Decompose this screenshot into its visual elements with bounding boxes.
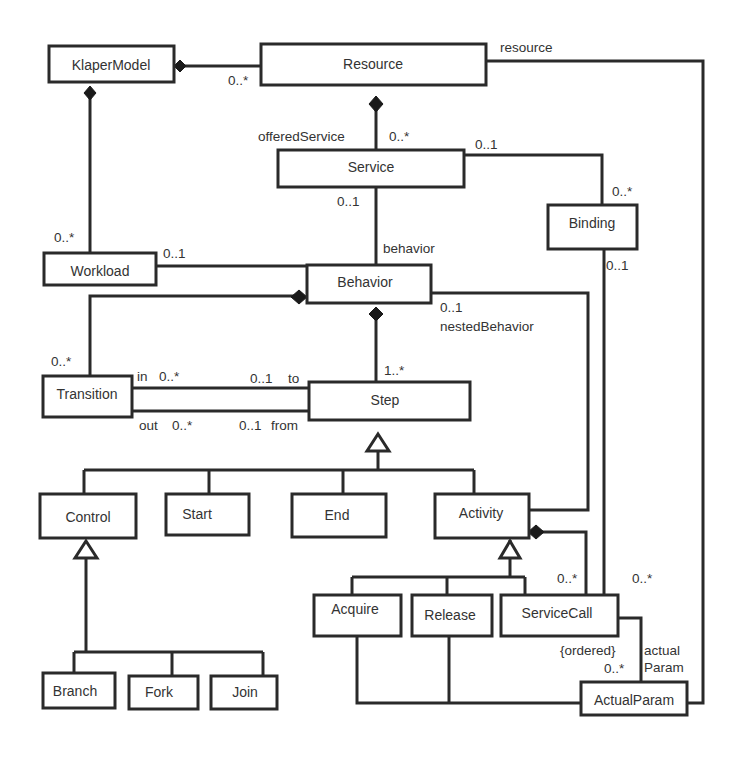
- svg-text:KlaperModel: KlaperModel: [72, 57, 151, 73]
- behavior-transition-link: [90, 296, 298, 375]
- acquire-resource-link: [357, 636, 420, 703]
- class-transition[interactable]: Transition: [43, 376, 132, 417]
- klaper-resource-diamond-icon: [174, 60, 186, 72]
- resource-role-label: resource: [500, 40, 553, 55]
- svg-text:Fork: Fork: [145, 684, 174, 700]
- to-role-label: to: [288, 371, 299, 386]
- behavior-transition-multiplicity: 0..*: [51, 354, 72, 369]
- service-behavior-multiplicity: 0..1: [337, 194, 360, 209]
- actual-param-multiplicity: 0..*: [604, 661, 625, 676]
- class-resource[interactable]: Resource: [261, 44, 486, 85]
- nested-behavior-multiplicity: 0..1: [440, 300, 463, 315]
- class-actualparam[interactable]: ActualParam: [581, 682, 687, 715]
- uml-class-diagram: KlaperModel Resource Service Binding Wor…: [0, 0, 737, 765]
- activity-generalization-triangle-icon: [500, 541, 520, 558]
- control-generalization-triangle-icon: [75, 541, 97, 558]
- in-multiplicity: 0..*: [159, 369, 180, 384]
- behavior-transition-diamond-icon: [291, 290, 307, 304]
- activity-servicecall-multiplicity: 0..*: [557, 571, 578, 586]
- class-control[interactable]: Control: [40, 494, 136, 538]
- svg-text:Step: Step: [371, 392, 400, 408]
- binding-servicecall-multiplicity: 0..1: [606, 258, 629, 273]
- nested-behavior-role-label: nestedBehavior: [440, 319, 534, 334]
- klaper-resource-multiplicity: 0..*: [228, 73, 249, 88]
- resource-service-diamond-icon: [369, 96, 383, 112]
- svg-text:Join: Join: [232, 684, 258, 700]
- service-binding-multiplicity: 0..1: [475, 137, 498, 152]
- class-release[interactable]: Release: [412, 595, 492, 636]
- class-workload[interactable]: Workload: [44, 253, 156, 285]
- class-binding[interactable]: Binding: [548, 205, 637, 249]
- svg-text:Transition: Transition: [57, 386, 118, 402]
- svg-text:Start: Start: [182, 506, 212, 522]
- service-binding-link: [464, 155, 602, 205]
- from-role-label: from: [271, 418, 298, 433]
- svg-text:Control: Control: [65, 509, 110, 525]
- out-multiplicity: 0..*: [172, 418, 193, 433]
- class-join[interactable]: Join: [211, 676, 277, 709]
- class-fork[interactable]: Fork: [129, 676, 198, 709]
- klaper-workload-diamond-icon: [84, 86, 96, 100]
- offered-service-multiplicity: 0..*: [389, 129, 410, 144]
- klaper-workload-multiplicity: 0..*: [54, 230, 75, 245]
- svg-text:Behavior: Behavior: [337, 274, 393, 290]
- svg-text:Workload: Workload: [71, 263, 130, 279]
- svg-text:End: End: [325, 507, 350, 523]
- svg-text:Activity: Activity: [459, 505, 503, 521]
- step-generalization-triangle-icon: [367, 434, 389, 451]
- behavior-role-label: behavior: [383, 241, 435, 256]
- svg-text:Binding: Binding: [569, 215, 616, 231]
- class-activity[interactable]: Activity: [435, 494, 529, 538]
- class-acquire[interactable]: Acquire: [314, 595, 401, 636]
- in-role-label: in: [137, 369, 148, 384]
- class-servicecall[interactable]: ServiceCall: [501, 595, 618, 636]
- svg-text:ActualParam: ActualParam: [594, 692, 674, 708]
- class-branch[interactable]: Branch: [43, 673, 115, 708]
- to-multiplicity: 0..1: [250, 371, 273, 386]
- binding-service-multiplicity: 0..*: [612, 184, 633, 199]
- class-step[interactable]: Step: [309, 382, 470, 420]
- resource-servicecall-multiplicity: 0..*: [632, 571, 653, 586]
- behavior-step-multiplicity: 1..*: [384, 363, 405, 378]
- actual-param-role-label-line1: actual: [644, 643, 680, 658]
- svg-text:Release: Release: [424, 607, 476, 623]
- actual-param-role-label-line2: Param: [644, 660, 684, 675]
- svg-text:ServiceCall: ServiceCall: [522, 605, 593, 621]
- offered-service-role-label: offeredService: [258, 129, 345, 144]
- svg-text:Acquire: Acquire: [331, 601, 379, 617]
- class-klapermodel[interactable]: KlaperModel: [49, 46, 174, 82]
- class-end[interactable]: End: [292, 494, 386, 537]
- svg-text:Resource: Resource: [343, 56, 403, 72]
- class-behavior[interactable]: Behavior: [307, 265, 431, 303]
- ordered-constraint-label: {ordered}: [560, 643, 616, 658]
- from-multiplicity: 0..1: [239, 418, 262, 433]
- workload-behavior-multiplicity: 0..1: [163, 246, 186, 261]
- behavior-step-diamond-icon: [369, 307, 383, 321]
- svg-text:Service: Service: [348, 159, 395, 175]
- svg-text:Branch: Branch: [53, 683, 97, 699]
- class-start[interactable]: Start: [166, 494, 249, 535]
- class-service[interactable]: Service: [278, 150, 464, 187]
- out-role-label: out: [139, 418, 158, 433]
